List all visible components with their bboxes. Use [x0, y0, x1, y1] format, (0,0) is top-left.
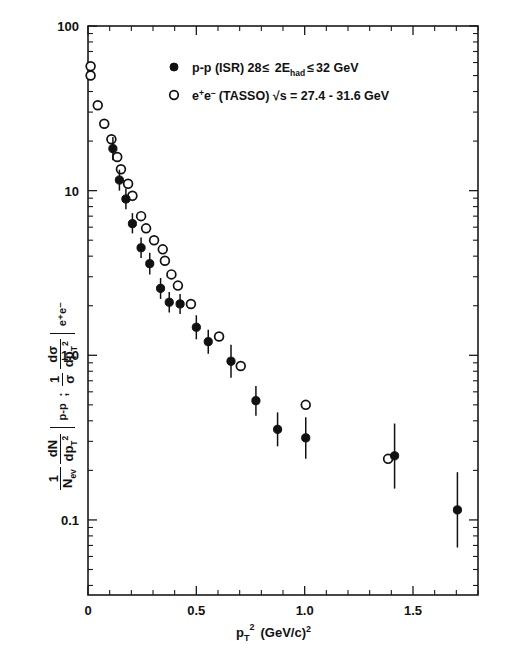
data-point-filled	[146, 260, 154, 268]
data-point-open	[215, 332, 224, 341]
data-point-open	[301, 400, 310, 409]
data-point-filled	[115, 176, 123, 184]
data-point-filled	[137, 244, 145, 252]
data-point-filled	[390, 452, 398, 460]
data-point-filled	[192, 323, 200, 331]
data-point-open	[100, 119, 109, 128]
data-point-open	[161, 256, 170, 265]
x-tick-label: 1.0	[296, 603, 314, 618]
figure-container: 00.51.01.5 100101.00.1 p-p (ISR) 28≤ 2Eh…	[0, 0, 505, 668]
data-point-open	[86, 62, 95, 71]
data-point-filled	[204, 338, 212, 346]
y-tick-label: 10	[65, 184, 79, 199]
legend-label-ee: e+e−(TASSO) √s = 27.4 - 31.6 GeV	[192, 88, 390, 103]
legend-label-pp: p-p (ISR) 28≤ 2Ehad≤32 GeV	[192, 61, 359, 78]
xlabel-sub: T	[244, 633, 250, 643]
legend-marker-ee	[170, 91, 179, 100]
plot-frame	[88, 26, 478, 595]
data-point-filled	[122, 195, 130, 203]
y-axis-ticks	[88, 26, 478, 585]
xlabel-units-sup: 2	[306, 624, 311, 634]
x-tick-label: 1.5	[404, 603, 422, 618]
scatter-plot-canvas: 00.51.01.5 100101.00.1 p-p (ISR) 28≤ 2Eh…	[0, 0, 505, 668]
x-tick-label: 0	[84, 603, 91, 618]
data-point-filled	[109, 145, 117, 153]
data-point-open	[150, 236, 159, 245]
data-point-filled	[273, 425, 281, 433]
series-p-p-isr	[109, 137, 462, 548]
x-axis-tick-labels: 00.51.01.5	[84, 603, 422, 618]
data-point-filled	[128, 220, 136, 228]
data-point-open	[117, 165, 126, 174]
y-axis-tick-labels: 100101.00.1	[57, 19, 79, 528]
data-point-filled	[176, 300, 184, 308]
legend: p-p (ISR) 28≤ 2Ehad≤32 GeV e+e−(TASSO) √…	[170, 61, 390, 103]
data-point-filled	[302, 434, 310, 442]
legend-marker-pp	[170, 63, 178, 71]
data-point-open	[137, 212, 146, 221]
y-tick-label: 100	[57, 19, 79, 34]
series-e-plus-e-minus-tasso	[86, 62, 392, 463]
plot-frame-rect	[88, 26, 478, 595]
data-point-open	[236, 362, 245, 371]
data-point-open	[142, 224, 151, 233]
data-point-open	[124, 179, 133, 188]
x-axis-title: pT2(GeV/c)2	[236, 622, 311, 643]
data-point-filled	[156, 284, 164, 292]
data-point-open	[158, 245, 167, 254]
legend-pp-main: p-p (ISR) 28	[192, 61, 261, 75]
xlabel-sup: 2	[249, 622, 254, 632]
x-tick-label: 0.5	[187, 603, 205, 618]
data-point-open	[113, 153, 122, 162]
y-tick-label: 1.0	[61, 348, 79, 363]
data-point-open	[187, 300, 196, 309]
data-point-filled	[165, 298, 173, 306]
data-point-filled	[453, 506, 461, 514]
data-point-open	[86, 71, 95, 80]
xlabel-p: p	[236, 625, 244, 640]
data-point-open	[107, 135, 116, 144]
data-point-open	[174, 281, 183, 290]
data-point-open	[93, 101, 102, 110]
data-point-filled	[227, 357, 235, 365]
data-point-filled	[252, 397, 260, 405]
data-point-open	[167, 270, 176, 279]
xlabel-units: (GeV/c)	[260, 625, 306, 640]
y-tick-label: 0.1	[61, 513, 79, 528]
x-axis-ticks	[88, 26, 478, 595]
